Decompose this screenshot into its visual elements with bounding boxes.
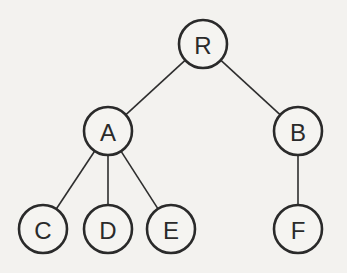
node-d: D: [84, 205, 132, 253]
node-f: F: [274, 205, 322, 253]
node-label: E: [163, 217, 179, 244]
node-e: E: [147, 205, 195, 253]
node-r: R: [179, 20, 227, 68]
node-label: C: [34, 217, 51, 244]
edge-a-e: [121, 151, 158, 209]
edge-r-a: [126, 60, 186, 115]
edge-r-b: [221, 60, 281, 115]
node-label: B: [290, 119, 306, 146]
node-label: F: [291, 217, 306, 244]
tree-diagram: RABCDEF: [0, 0, 347, 273]
node-label: D: [99, 217, 116, 244]
tree-nodes: RABCDEF: [19, 20, 322, 253]
node-b: B: [274, 107, 322, 155]
node-c: C: [19, 205, 67, 253]
edge-a-c: [56, 151, 94, 209]
node-label: A: [100, 119, 116, 146]
node-label: R: [194, 32, 211, 59]
node-a: A: [84, 107, 132, 155]
